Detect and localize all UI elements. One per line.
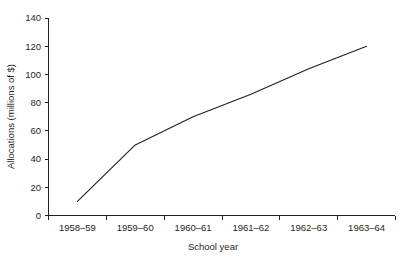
x-tick-label: 1963–64 xyxy=(348,222,385,233)
x-axis-title: School year xyxy=(188,241,238,252)
y-tick-label: 20 xyxy=(30,182,41,193)
x-tick-label: 1962–63 xyxy=(290,222,327,233)
x-tick-label: 1958–59 xyxy=(59,222,96,233)
y-tick-label: 100 xyxy=(25,69,41,80)
y-tick-label: 60 xyxy=(30,125,41,136)
y-tick-label: 40 xyxy=(30,153,41,164)
y-tick-label: 0 xyxy=(36,210,41,221)
x-tick-label: 1959–60 xyxy=(117,222,154,233)
y-tick-label: 120 xyxy=(25,41,41,52)
x-tick-label: 1961–62 xyxy=(232,222,269,233)
y-tick-label: 80 xyxy=(30,97,41,108)
x-tick-label: 1960–61 xyxy=(175,222,212,233)
line-chart: 0 20 40 60 80 100 120 140 1958–59 1959–6… xyxy=(0,0,406,264)
y-axis-title: Allocations (millions of $) xyxy=(5,64,16,169)
chart-canvas: 0 20 40 60 80 100 120 140 1958–59 1959–6… xyxy=(0,0,406,264)
y-tick-label: 140 xyxy=(25,12,41,23)
